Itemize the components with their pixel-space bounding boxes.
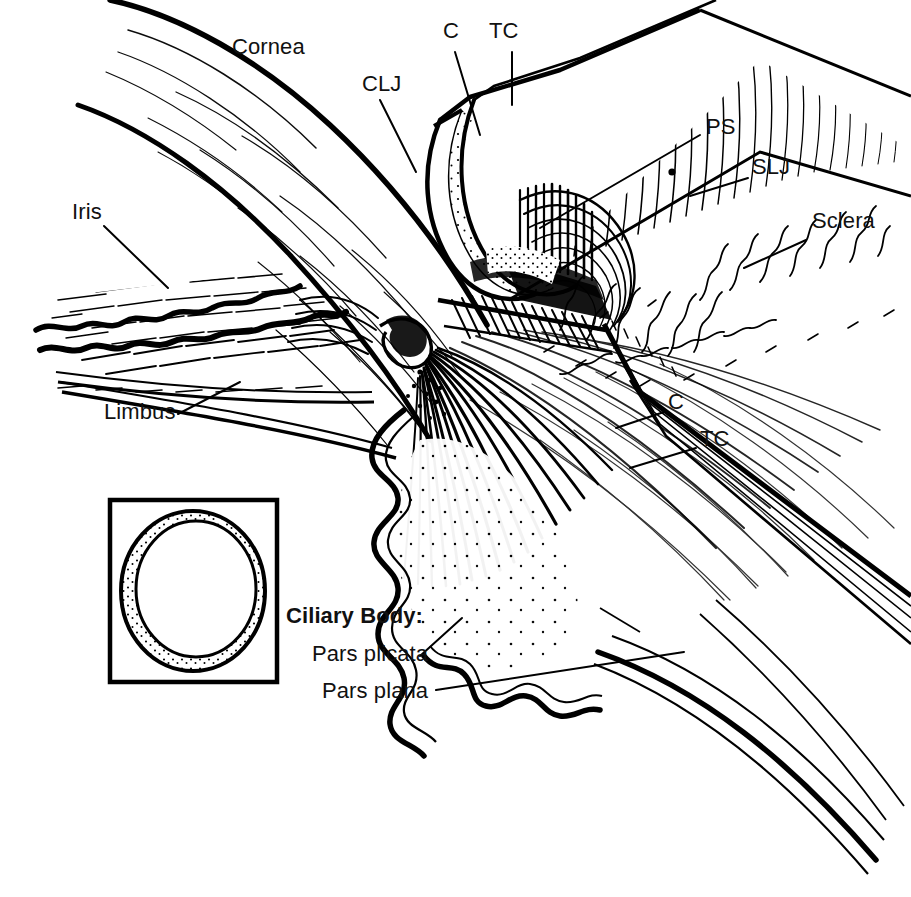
label-ciliary-body: Ciliary Body: [286,605,423,627]
label-c-top: C [443,20,459,42]
label-pars-plana: Pars plana [322,680,428,702]
label-tc-top: TC [489,20,519,42]
eye-anterior-segment-illustration [0,0,911,897]
label-ps: PS [706,116,736,138]
label-tc-bottom: TC [700,428,730,450]
label-iris: Iris [72,201,102,223]
label-cornea: Cornea [232,36,305,58]
label-c-bottom: C [668,391,684,413]
scleral-spur-marker [668,168,675,175]
label-pars-plicata: Pars plicata [312,643,428,665]
label-slj: SLJ [752,156,790,178]
cross-section-inset [110,500,277,682]
label-sclera: Sclera [812,210,875,232]
anatomy-figure: Cornea CLJ C TC PS SLJ Sclera Iris Limbu… [0,0,911,897]
label-limbus: Limbus [104,401,176,423]
label-clj: CLJ [362,73,401,95]
